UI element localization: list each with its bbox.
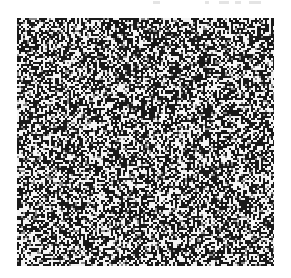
faint-mark — [205, 1, 209, 4]
random-noise-image — [17, 18, 274, 266]
faint-mark — [219, 1, 229, 4]
faint-top-marks — [153, 0, 273, 6]
faint-mark — [153, 1, 160, 4]
faint-mark — [235, 1, 241, 4]
faint-mark — [249, 1, 261, 4]
